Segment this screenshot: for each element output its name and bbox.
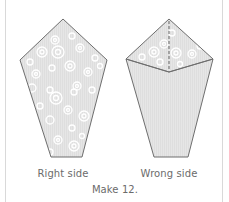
right-side-label: Right side: [38, 168, 89, 179]
right-side-pentagon: [20, 19, 107, 157]
wrong-side-pentagon: [126, 19, 213, 157]
make-count-instruction: Make 12.: [92, 184, 138, 195]
wrong-side-body: [126, 59, 213, 157]
wrong-side-label: Wrong side: [141, 168, 198, 179]
